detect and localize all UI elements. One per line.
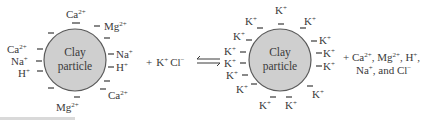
svg-text:K+: K+ xyxy=(226,69,238,81)
ion-mg-bottom: Mg2+ xyxy=(56,101,79,113)
svg-text:K+: K+ xyxy=(236,83,248,95)
ion-ca-top: Ca2+ xyxy=(66,8,86,20)
ion-h-right: H+ xyxy=(116,61,128,73)
svg-text:K+: K+ xyxy=(323,47,335,59)
svg-text:K+: K+ xyxy=(259,99,271,111)
left-particle-label-line1: Clay xyxy=(64,46,86,59)
svg-text:K+: K+ xyxy=(224,57,236,69)
right-particle-label-line2: particle xyxy=(263,60,297,73)
svg-text:K+: K+ xyxy=(319,34,331,46)
ion-na-right: Na+ xyxy=(116,48,133,60)
svg-text:K+: K+ xyxy=(285,99,297,111)
left-clay-particle: Clay particle Ca2+ Mg2+ Na+ H+ Ca2+ Mg2+… xyxy=(7,8,133,113)
equilibrium-arrow-icon xyxy=(197,56,220,66)
cation-exchange-diagram: Clay particle Ca2+ Mg2+ Na+ H+ Ca2+ Mg2+… xyxy=(0,0,444,123)
svg-text:K+: K+ xyxy=(304,15,316,27)
ion-h-left: H+ xyxy=(18,67,30,79)
figure-caption-remnant xyxy=(0,117,75,120)
svg-text:K+: K+ xyxy=(275,4,287,16)
svg-text:K+: K+ xyxy=(312,88,324,100)
ion-mg-top-right: Mg2+ xyxy=(104,20,127,32)
ion-ca-bottom-right: Ca2+ xyxy=(108,89,128,101)
right-clay-particle: Clay particle K+ K+ K+ K+ K+ K+ K+ xyxy=(224,4,335,111)
right-particle-label-line1: Clay xyxy=(269,46,291,59)
svg-text:K+: K+ xyxy=(233,30,245,42)
svg-text:K+: K+ xyxy=(323,60,335,72)
ion-ca-left: Ca2+ xyxy=(7,43,27,55)
products-line2: Na+, and Cl− xyxy=(356,64,411,76)
svg-text:K+: K+ xyxy=(245,15,257,27)
ion-na-left: Na+ xyxy=(11,55,28,67)
svg-text:K+: K+ xyxy=(224,45,236,57)
products-line1: + Ca2+, Mg2+, H+, xyxy=(343,51,420,63)
left-particle-label-line2: particle xyxy=(58,60,92,73)
reactant-kcl: +K+Cl− xyxy=(146,56,185,68)
